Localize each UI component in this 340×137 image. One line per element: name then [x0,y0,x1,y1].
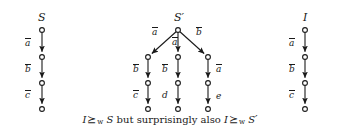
state-node [206,81,211,86]
action-label: c [289,91,294,100]
state-node [206,55,211,60]
action-label: b [133,65,139,74]
prime-mark: ′ [182,11,185,24]
tree-name-tree-s: S [38,12,46,23]
caption-relation-2: ⪰ [228,113,239,125]
action-label: c [25,91,30,100]
tree-name-tree-s-prime: S′ [174,12,184,23]
caption-prime-mark: ′ [255,113,258,126]
action-label: a [172,38,177,47]
action-label: a [289,39,294,48]
root-node [40,28,45,33]
caption-symbol-s: S [107,114,114,125]
action-label: a [216,65,221,74]
caption-relation-subscript-1: w [97,118,103,126]
action-label: c [133,91,138,100]
state-node [206,107,211,112]
state-node [146,107,151,112]
state-node [303,55,308,60]
state-node [176,81,181,86]
action-label: d [162,91,168,100]
root-node [176,28,181,33]
tree-name-tree-i: I [303,12,307,23]
state-node [303,81,308,86]
figure-caption: I⪰w S but surprisingly also I⪰w S′ [0,113,340,126]
caption-relation-1: ⪰ [86,113,97,125]
action-label: b [289,65,295,74]
caption-middle-text: but surprisingly also [117,114,221,125]
state-node [303,107,308,112]
root-node [303,28,308,33]
state-node [146,55,151,60]
action-label: e [216,92,221,101]
state-node [176,107,181,112]
action-label: a [25,39,30,48]
state-node [40,81,45,86]
state-node [40,107,45,112]
state-node [146,81,151,86]
action-label: b [25,65,31,74]
action-label: b [162,65,168,74]
state-node [40,55,45,60]
action-label: b [196,28,202,37]
state-node [176,55,181,60]
figure-container: SabcS′aabbbacdeIabc I⪰w S but surprising… [0,0,340,137]
caption-relation-subscript-2: w [239,118,245,126]
action-label: a [152,28,157,37]
